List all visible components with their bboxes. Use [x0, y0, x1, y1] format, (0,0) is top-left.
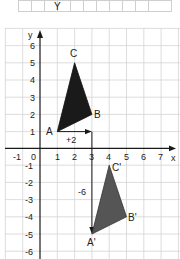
y-tick: -6	[25, 247, 33, 257]
x-tick: 4	[106, 152, 111, 162]
y-tick: 6	[30, 41, 35, 51]
label-a: A	[46, 126, 53, 137]
y-tick: 1	[30, 127, 35, 137]
label-shift-x: +2	[66, 135, 76, 145]
y-tick: 4	[30, 75, 35, 85]
x-tick: 7	[158, 152, 163, 162]
label-c: C	[70, 48, 77, 59]
x-tick-labels: -1 0 1 2 3 4 5 6 7	[13, 152, 163, 162]
label-a-prime: A'	[87, 237, 96, 248]
y-tick: -3	[25, 195, 33, 205]
axes	[5, 36, 172, 259]
label-b: B	[94, 109, 101, 120]
y-tick: -5	[25, 230, 33, 240]
label-shift-y: -6	[78, 187, 86, 197]
coordinate-grid: x y -1 0 1 2 3 4 5 6 7 6 5 4 3 2 1 -1 -2…	[0, 0, 180, 259]
y-tick: -4	[25, 212, 33, 222]
y-tick: 5	[30, 58, 35, 68]
label-b-prime: B'	[128, 212, 137, 223]
x-tick: -1	[13, 152, 21, 162]
x-axis-arrow-icon	[169, 146, 176, 152]
x-axis-label: x	[171, 153, 176, 163]
x-tick: 6	[141, 152, 146, 162]
y-axis-arrow-icon	[37, 30, 43, 38]
x-tick: 2	[72, 152, 77, 162]
arrow-plus2-head-icon	[85, 129, 92, 134]
x-tick: 5	[124, 152, 129, 162]
y-tick: -2	[25, 178, 33, 188]
y-tick: 2	[30, 110, 35, 120]
y-tick-labels: 6 5 4 3 2 1 -1 -2 -3 -4 -5 -6	[25, 41, 35, 257]
y-axis-label: y	[28, 30, 33, 40]
label-c-prime: C'	[112, 162, 121, 173]
y-tick: 3	[30, 93, 35, 103]
y-tick: -1	[25, 161, 33, 171]
x-tick: 1	[55, 152, 60, 162]
